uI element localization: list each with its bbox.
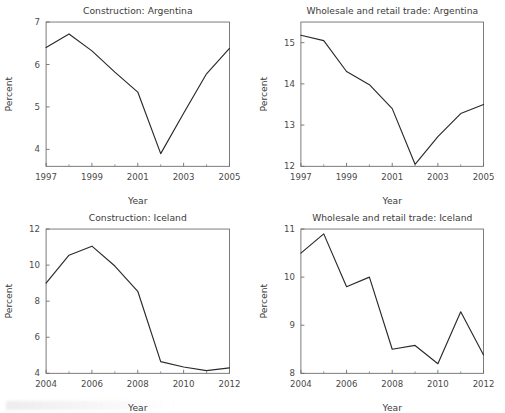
x-tick-label: 2004 — [290, 380, 312, 390]
chart-panel-wholesale-iceland: Wholesale and retail trade: Iceland Year… — [253, 206, 505, 412]
y-tick-label: 15 — [284, 38, 295, 48]
x-tick-label: 1997 — [35, 172, 57, 182]
data-series-line — [46, 34, 229, 154]
x-axis-label: Year — [127, 195, 148, 206]
line-chart-construction-argentina: Construction: Argentina Year Percent 456… — [0, 0, 253, 206]
y-tick-label: 10 — [29, 261, 40, 271]
y-tick-label: 6 — [35, 333, 40, 343]
x-tick-label: 1997 — [290, 172, 312, 182]
plot-area: 1213141519971999200120032005 — [284, 22, 494, 182]
x-axis-label: Year — [381, 403, 402, 413]
x-tick-label: 2006 — [81, 380, 103, 390]
chart-title: Wholesale and retail trade: Argentina — [306, 5, 478, 16]
x-tick-label: 2001 — [127, 172, 149, 182]
plot-frame — [46, 22, 229, 166]
x-tick-label: 1999 — [335, 172, 357, 182]
y-tick-label: 13 — [284, 120, 295, 130]
x-tick-label: 2012 — [218, 380, 240, 390]
plot-area: 456719971999200120032005 — [35, 17, 241, 182]
y-axis-label: Percent — [3, 76, 14, 111]
data-series-line — [300, 234, 483, 364]
x-tick-label: 2010 — [426, 380, 448, 390]
y-tick-label: 8 — [289, 369, 294, 379]
x-tick-label: 2003 — [173, 172, 195, 182]
y-tick-label: 7 — [35, 17, 40, 27]
chart-panel-construction-iceland: Construction: Iceland Year Percent 46810… — [0, 206, 253, 412]
chart-panel-wholesale-argentina: Wholesale and retail trade: Argentina Ye… — [253, 0, 505, 206]
chart-title: Construction: Iceland — [89, 212, 187, 223]
y-tick-label: 14 — [284, 79, 295, 89]
x-axis-label: Year — [381, 195, 402, 206]
x-tick-label: 2008 — [381, 380, 403, 390]
chart-title: Wholesale and retail trade: Iceland — [312, 212, 472, 223]
line-chart-construction-iceland: Construction: Iceland Year Percent 46810… — [0, 206, 253, 412]
plot-area: 468101220042006200820102012 — [29, 225, 240, 390]
y-tick-label: 4 — [35, 144, 40, 154]
x-tick-label: 2001 — [381, 172, 403, 182]
y-tick-label: 8 — [35, 297, 40, 307]
y-tick-label: 6 — [35, 60, 40, 70]
y-axis-label: Percent — [3, 284, 14, 319]
chart-panel-construction-argentina: Construction: Argentina Year Percent 456… — [0, 0, 253, 206]
x-tick-label: 2004 — [35, 380, 57, 390]
data-series-line — [46, 247, 229, 371]
y-tick-label: 9 — [289, 321, 294, 331]
x-tick-label: 2008 — [127, 380, 149, 390]
x-tick-label: 2010 — [173, 380, 195, 390]
line-chart-wholesale-argentina: Wholesale and retail trade: Argentina Ye… — [253, 0, 505, 206]
plot-area: 89101120042006200820102012 — [284, 225, 494, 390]
chart-title: Construction: Argentina — [83, 5, 193, 16]
x-tick-label: 2012 — [472, 380, 494, 390]
y-axis-label: Percent — [257, 76, 268, 111]
x-axis-label: Year — [127, 403, 148, 413]
y-tick-label: 4 — [35, 369, 40, 379]
y-tick-label: 5 — [35, 102, 40, 112]
x-tick-label: 2006 — [335, 380, 357, 390]
x-tick-label: 2003 — [426, 172, 448, 182]
data-series-line — [300, 35, 483, 164]
y-tick-label: 10 — [284, 273, 295, 283]
x-tick-label: 1999 — [81, 172, 103, 182]
y-tick-label: 12 — [284, 161, 295, 171]
y-tick-label: 12 — [29, 225, 40, 235]
y-tick-label: 11 — [284, 225, 295, 235]
plot-frame — [300, 229, 483, 373]
y-axis-label: Percent — [257, 284, 268, 319]
x-tick-label: 2005 — [472, 172, 494, 182]
plot-frame — [300, 22, 483, 166]
line-chart-wholesale-iceland: Wholesale and retail trade: Iceland Year… — [253, 206, 505, 412]
x-tick-label: 2005 — [218, 172, 240, 182]
plot-frame — [46, 229, 229, 373]
